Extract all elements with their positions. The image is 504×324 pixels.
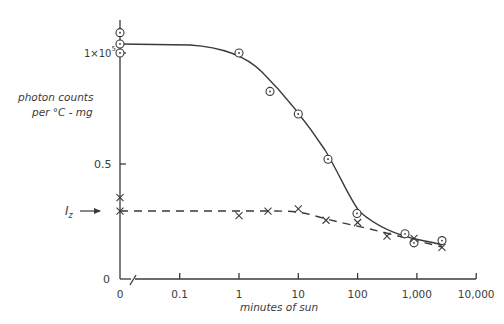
circle-dot-marker — [266, 87, 274, 95]
circle-dot-marker — [438, 237, 446, 245]
circle-dot-marker — [410, 239, 418, 247]
x-tick-label: 10 — [292, 288, 305, 300]
circle-dot-marker — [116, 49, 124, 57]
x-marker — [236, 212, 243, 219]
y-tick-label-1e5: 1×105 — [84, 45, 116, 59]
x-tick-label: 10,000 — [458, 288, 495, 300]
circle-markers — [116, 29, 446, 247]
y-axis-label-line1: photon counts — [17, 91, 94, 103]
circle-dot-marker — [353, 209, 361, 217]
x-tick-label: 0.1 — [171, 288, 188, 300]
solid-fit-curve — [120, 44, 442, 245]
y-tick-label-0: 0 — [103, 273, 110, 286]
x-tick-label: 1 — [236, 288, 243, 300]
chart: 0 0.5 1×105 photon counts per °C - mg mi… — [0, 0, 504, 324]
x-marker — [323, 217, 330, 224]
circle-dot-marker — [235, 49, 243, 57]
x-axis-label: minutes of sun — [240, 301, 318, 313]
x-tick-label: 100 — [348, 288, 368, 300]
circle-dot-marker — [116, 29, 124, 37]
circle-dot-marker — [324, 155, 332, 163]
x-tick-labels: 00.11101001,00010,000 — [117, 288, 495, 300]
y-axis — [120, 20, 126, 279]
x-tick-label: 1,000 — [402, 288, 432, 300]
x-tick-label: 0 — [117, 288, 124, 300]
iz-annotation: Iz — [65, 204, 101, 220]
circle-dot-marker — [401, 230, 409, 238]
svg-text:Iz: Iz — [65, 204, 74, 220]
y-tick-label-0.5: 0.5 — [94, 158, 112, 171]
x-marker — [295, 205, 302, 212]
circle-dot-marker — [294, 110, 302, 118]
y-axis-label-line2: per °C - mg — [31, 106, 93, 118]
circle-dot-marker — [116, 40, 124, 48]
x-marker — [354, 219, 361, 226]
x-axis — [120, 273, 476, 285]
cross-markers — [117, 194, 446, 251]
dashed-fit-curve — [120, 211, 442, 247]
